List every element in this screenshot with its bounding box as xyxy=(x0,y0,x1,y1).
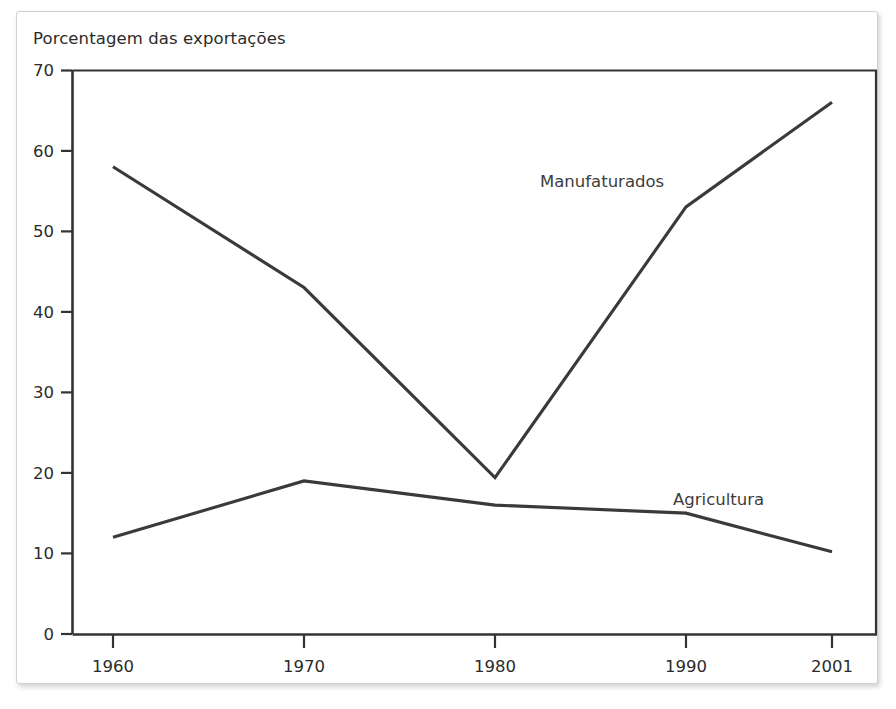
y-tick-label-50: 50 xyxy=(33,222,54,241)
y-tick-marks xyxy=(61,71,72,635)
y-tick-label-0: 0 xyxy=(44,625,55,644)
line-chart: 70 60 50 40 30 20 10 0 1960 1970 1980 19… xyxy=(0,0,896,709)
series-label-agricultura: Agricultura xyxy=(673,490,764,509)
y-tick-label-40: 40 xyxy=(33,303,54,322)
y-tick-label-60: 60 xyxy=(33,142,54,161)
y-tick-label-20: 20 xyxy=(33,464,54,483)
series-line-manufaturados xyxy=(113,102,832,477)
y-tick-label-10: 10 xyxy=(33,544,54,563)
x-tick-label-1970: 1970 xyxy=(283,657,325,676)
x-tick-marks xyxy=(113,635,832,648)
y-tick-label-70: 70 xyxy=(33,61,54,80)
x-tick-label-1990: 1990 xyxy=(665,657,707,676)
y-tick-label-30: 30 xyxy=(33,383,54,402)
x-tick-label-2001: 2001 xyxy=(811,657,853,676)
x-tick-label-1980: 1980 xyxy=(474,657,516,676)
series-label-manufaturados: Manufaturados xyxy=(540,172,664,191)
x-tick-label-1960: 1960 xyxy=(92,657,134,676)
